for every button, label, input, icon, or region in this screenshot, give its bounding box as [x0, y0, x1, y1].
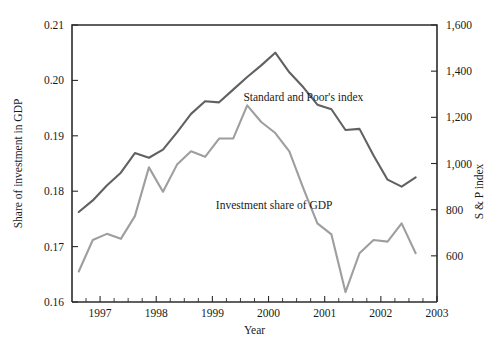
- data-series-lines: [79, 53, 416, 292]
- y-tick-label: 0.19: [44, 130, 64, 142]
- y2-tick-label: 800: [446, 204, 464, 216]
- series-line-1: [79, 53, 416, 212]
- y2-tick-label: 1,200: [446, 111, 472, 124]
- y2-axis-title: S & P index: [473, 164, 485, 220]
- y-tick-label: 0.21: [44, 19, 64, 31]
- y2-tick-label: 1,000: [446, 158, 472, 171]
- y-axis-left-ticks: 0.160.170.180.190.200.21: [44, 19, 78, 308]
- chart-figure: 1997199819992000200120022003 0.160.170.1…: [0, 0, 496, 350]
- series-label-2: Investment share of GDP: [216, 199, 333, 211]
- y-tick-label: 0.16: [44, 296, 64, 308]
- x-tick-label: 2002: [369, 307, 392, 319]
- y-tick-label: 0.20: [44, 74, 64, 86]
- x-tick-label: 1999: [201, 307, 224, 319]
- x-axis-title: Year: [244, 324, 265, 336]
- y2-tick-label: 1,600: [446, 19, 472, 32]
- dual-axis-line-chart: 1997199819992000200120022003 0.160.170.1…: [0, 0, 496, 350]
- y-tick-label: 0.17: [44, 241, 64, 253]
- x-tick-label: 1997: [89, 307, 112, 319]
- series-label-1: Standard and Poor's index: [243, 91, 363, 103]
- x-tick-label: 2000: [257, 307, 280, 319]
- y-tick-label: 0.18: [44, 185, 64, 197]
- y-axis-title: Share of investment in GDP: [12, 99, 24, 229]
- x-axis-ticks: 1997199819992000200120022003: [86, 296, 449, 319]
- axis-titles: YearShare of investment in GDPS & P inde…: [12, 99, 485, 336]
- x-tick-label: 1998: [145, 307, 168, 319]
- x-tick-label: 2001: [313, 307, 336, 319]
- y2-tick-label: 600: [446, 250, 464, 262]
- y2-tick-label: 1,400: [446, 65, 472, 78]
- x-tick-label: 2003: [426, 307, 449, 319]
